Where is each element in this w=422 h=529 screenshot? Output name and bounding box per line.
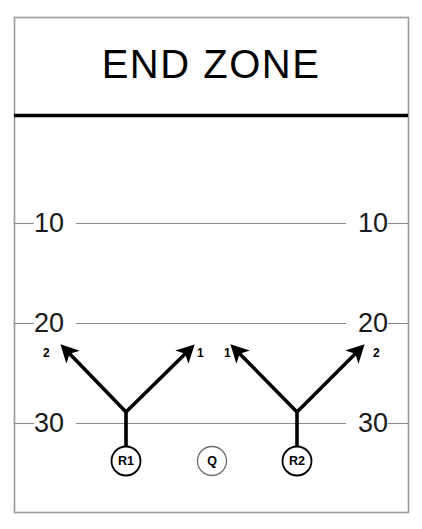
route-label-r1-outside: 2 <box>43 347 50 359</box>
route-r1-branch-1 <box>126 352 187 412</box>
player-label-r1: R1 <box>118 454 134 468</box>
player-label-q: Q <box>207 454 217 468</box>
play-diagram: R1 Q R2 END ZONE 10 20 30 10 20 30 2 1 1… <box>0 0 422 529</box>
route-r2-branch-1 <box>238 352 297 412</box>
route-label-r1-inside: 1 <box>197 347 204 359</box>
route-r2-branch-2 <box>297 352 357 412</box>
player-label-r2: R2 <box>289 454 305 468</box>
end-zone-title: END ZONE <box>0 40 422 88</box>
route-label-r2-inside: 1 <box>224 347 231 359</box>
yard-number-20-left: 20 <box>34 310 80 337</box>
yard-number-30-right: 30 <box>342 410 388 437</box>
yard-number-20-right: 20 <box>342 310 388 337</box>
yard-number-10-left: 10 <box>34 210 80 237</box>
yard-number-10-right: 10 <box>342 210 388 237</box>
yard-number-30-left: 30 <box>34 410 80 437</box>
route-r1-branch-2 <box>68 352 126 412</box>
field-border <box>15 18 409 513</box>
route-label-r2-outside: 2 <box>373 347 380 359</box>
